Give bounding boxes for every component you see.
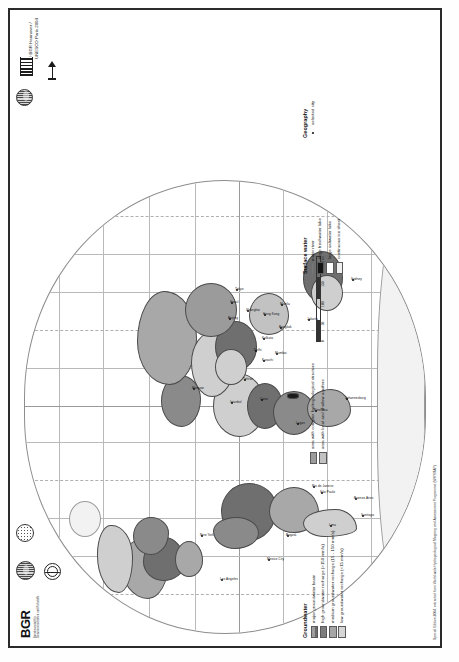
city-label: Moscow (192, 387, 204, 390)
legend-surface-water: Surface water major river large freshwat… (302, 154, 345, 274)
city-label: Kolkata (262, 337, 273, 340)
legend-item[interactable]: large freshwater lake (317, 154, 324, 274)
scalebar-tick: 150 (321, 281, 325, 286)
city-label: Manila (280, 303, 290, 306)
copyright-block: © BGR Hannover / UNESCO Paris 2004 (28, 18, 41, 59)
graticule-meridian (25, 216, 425, 217)
legend-label: area with local and shallow aquifers (321, 379, 326, 449)
legend-label: low groundwater recharge (<15 mm/a) (340, 548, 345, 623)
graticule-meridian (25, 254, 425, 255)
city-label: Sydney (351, 278, 362, 281)
unesco-temple-logo (18, 56, 33, 76)
city-label: Buenos Aires (354, 497, 373, 500)
globe-icon (16, 89, 33, 106)
swatch-saltwater-lake-icon (326, 262, 333, 274)
legend-label: high groundwater recharge (>150 mm/a) (321, 544, 326, 623)
swatch-major-groundwater-basin-icon (311, 626, 318, 638)
legend-item[interactable]: area with local and shallow aquifers (319, 304, 326, 464)
city-label: Santiago (361, 514, 374, 517)
city-label: Mexico City (267, 558, 284, 561)
swatch-major-river-icon (312, 264, 313, 274)
city-label: Tehran (243, 378, 253, 381)
landmass-mexico (175, 541, 203, 577)
graticule-parallel (371, 181, 372, 633)
city-label: Tokyo (235, 288, 244, 291)
landmass-antarctica-ice-sheet (377, 193, 425, 619)
graticule-meridian (25, 480, 425, 481)
legend-label: area with complex hydrogeological struct… (311, 363, 316, 449)
city-label: Karachi (262, 359, 273, 362)
legend-item[interactable]: continuous ice sheet (336, 154, 343, 274)
lake-victoria (287, 393, 299, 399)
rotated-map-poster: Los AngelesMexico CityNew YorkBogotáLima… (10, 10, 440, 646)
screenshot-page: Los AngelesMexico CityNew YorkBogotáLima… (0, 0, 459, 662)
legend-item[interactable]: high groundwater recharge (>150 mm/a) (320, 488, 327, 638)
legend-label: major river (311, 240, 316, 261)
city-label: Delhi (254, 349, 262, 352)
legend-item[interactable]: low groundwater recharge (<15 mm/a) (338, 488, 345, 638)
legend-item[interactable]: major river (311, 154, 316, 274)
legend-geography-title: Geography (302, 38, 308, 138)
city-label: Bangkok (279, 326, 292, 329)
city-label: Istanbul (230, 401, 242, 404)
globe-projection: Los AngelesMexico CityNew YorkBogotáLima… (24, 180, 426, 634)
legend-surface-water-title: Surface water (302, 154, 308, 274)
legend-groundwater-title: Groundwater (302, 488, 308, 638)
city-label: Johannesburg (345, 397, 366, 400)
city-label: Cairo (260, 398, 268, 401)
swatch-medium-recharge-icon (329, 626, 336, 638)
graticule-meridian (25, 442, 425, 443)
temple-icon (18, 56, 33, 76)
graticule-meridian (25, 556, 425, 557)
copyright-line-1: © BGR Hannover / (28, 18, 34, 59)
legend-label: medium groundwater recharge (15 - 150 mm… (331, 531, 336, 623)
landmass-east-asia (185, 283, 237, 337)
city-label: Beijing (228, 317, 238, 320)
north-arrow-logo (48, 61, 57, 80)
swatch-high-recharge-icon (320, 626, 327, 638)
secondary-globe-logo (16, 89, 33, 106)
legend-item[interactable]: medium groundwater recharge (15 - 150 mm… (329, 488, 336, 638)
legend-label: selected city (311, 101, 316, 125)
swatch-local-shallow-aquifers-icon (319, 452, 326, 464)
legend-item[interactable]: major groundwater basin (311, 488, 318, 638)
swatch-selected-city-icon (311, 128, 316, 138)
graticule-parallel (59, 181, 60, 633)
city-label: Seoul (230, 301, 238, 304)
city-label: Mumbai (275, 352, 287, 355)
legend-label: major groundwater basin (312, 575, 317, 623)
legend-label: continuous ice sheet (337, 219, 342, 259)
landmass-greenland-ice (69, 501, 101, 537)
legend-structure: area with complex hydrogeological struct… (310, 304, 329, 464)
swatch-complex-structure-icon (310, 452, 317, 464)
legend-item[interactable]: large saltwater lake (326, 154, 333, 274)
poster-frame: Los AngelesMexico CityNew YorkBogotáLima… (8, 8, 442, 648)
legend-item[interactable]: area with complex hydrogeological struct… (310, 304, 317, 464)
legend-groundwater: Groundwater major groundwater basin high… (302, 488, 348, 638)
graticule-meridian (25, 594, 425, 595)
swatch-low-recharge-icon (338, 626, 345, 638)
arrow-icon (48, 61, 57, 80)
city-label: Lagos (296, 422, 305, 425)
city-label: Los Angeles (220, 578, 238, 581)
world-map-panel[interactable]: Los AngelesMexico CityNew YorkBogotáLima… (16, 172, 434, 642)
city-label: Hong Kong (263, 313, 279, 316)
copyright-line-2: UNESCO Paris 2004 (34, 18, 40, 59)
legend-label: large freshwater lake (318, 218, 323, 259)
legend-item[interactable]: selected city (311, 38, 316, 138)
landmass-andes-north (213, 517, 259, 549)
legend-label: large saltwater lake (328, 221, 333, 259)
legend-geography: Geography selected city (302, 38, 318, 138)
city-label: Bogotá (286, 534, 296, 537)
city-label: Shanghai (246, 309, 260, 312)
swatch-freshwater-lake-icon (317, 262, 324, 274)
city-label: New York (200, 534, 214, 537)
swatch-continuous-ice-sheet-icon (336, 262, 343, 274)
